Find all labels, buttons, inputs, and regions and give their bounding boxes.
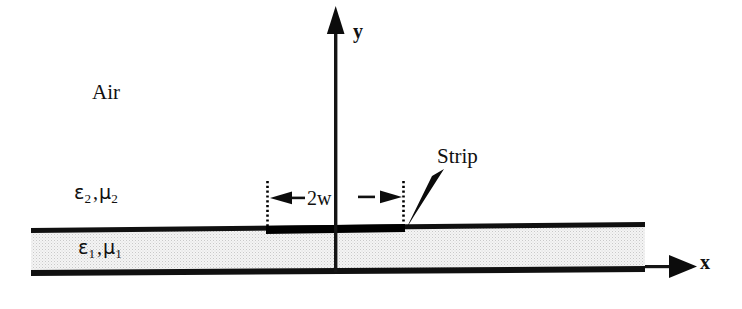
permeability-symbol-2: μ — [99, 181, 111, 204]
slab-medium-separator: , — [95, 236, 103, 258]
permittivity-symbol-1: ε — [78, 236, 88, 259]
permeability-subscript-1: 1 — [115, 246, 122, 261]
strip-waveguide-figure: Air ε2,μ2 ε1,μ1 Strip 2w y x — [0, 0, 742, 309]
width-dimension-left-arrowhead — [270, 192, 292, 205]
y-axis-arrowhead — [327, 6, 345, 34]
y-axis-label: y — [353, 21, 363, 41]
width-dimension-right-arrowhead — [380, 191, 402, 204]
x-axis-arrowhead — [669, 255, 697, 278]
width-dimension-right-shaft — [358, 196, 375, 199]
figure-canvas — [0, 0, 742, 309]
permittivity-subscript-1: 1 — [88, 246, 95, 261]
permittivity-symbol-2: ε — [74, 181, 84, 204]
permittivity-subscript-2: 2 — [84, 191, 91, 206]
strip-label: Strip — [437, 146, 478, 167]
permeability-subscript-2: 2 — [111, 191, 118, 206]
air-region-label: Air — [92, 82, 120, 103]
strip-leader-arrow — [406, 169, 444, 229]
strip-width-label: 2w — [307, 188, 331, 208]
slab-medium-label: ε1,μ1 — [78, 237, 122, 261]
upper-medium-separator: , — [91, 181, 99, 203]
y-axis-line — [334, 22, 337, 272]
permeability-symbol-1: μ — [103, 236, 115, 259]
upper-medium-label: ε2,μ2 — [74, 182, 118, 206]
x-axis-label: x — [700, 252, 710, 272]
